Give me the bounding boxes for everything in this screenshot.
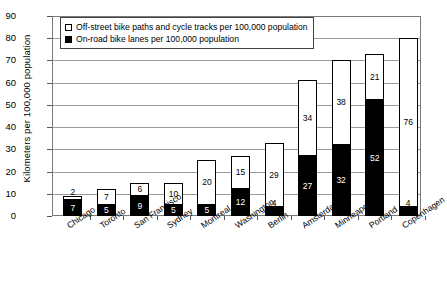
bar-value-label: 21 <box>370 73 379 82</box>
bar-value-label: 5 <box>171 206 176 215</box>
bar-value-label: 76 <box>403 118 412 127</box>
bar-value-label: 38 <box>336 98 345 107</box>
bar-value-label: 6 <box>137 185 142 194</box>
bar-segment-off-street: 15 <box>231 156 250 189</box>
bar-value-label: 9 <box>137 202 142 211</box>
y-tick-label: 20 <box>0 167 16 177</box>
bar-value-label: 7 <box>70 204 75 213</box>
bar-value-label: 12 <box>236 198 245 207</box>
bar-group: 205 <box>197 160 216 216</box>
bar-group: 3427 <box>298 80 317 216</box>
bar-group: 764 <box>399 38 418 216</box>
bar-group: 1512 <box>231 156 250 216</box>
y-axis-title: Kilometers per 100,000 population <box>21 9 32 209</box>
bar-value-label: 29 <box>269 171 278 180</box>
bar-value-label: 27 <box>303 182 312 191</box>
y-tick-label: 80 <box>0 33 16 43</box>
y-tick-label: 90 <box>0 11 16 21</box>
bar-value-label: 5 <box>205 206 210 215</box>
legend-swatch-off-street-icon <box>65 24 72 31</box>
bar-group: 2152 <box>365 54 384 216</box>
legend-swatch-on-road-icon <box>65 36 72 43</box>
legend-label-on-road: On-road bike lanes per 100,000 populatio… <box>76 35 239 44</box>
y-tick-label: 50 <box>0 100 16 110</box>
bar-value-label: 34 <box>303 114 312 123</box>
bar-value-label: 7 <box>104 193 109 202</box>
bar-value-label: 52 <box>370 154 379 163</box>
y-tick-label: 70 <box>0 56 16 66</box>
bar-value-label: 20 <box>202 178 211 187</box>
bar-value-label: 15 <box>236 168 245 177</box>
y-tick-mark <box>47 216 52 217</box>
y-tick-label: 40 <box>0 122 16 132</box>
y-tick-label: 60 <box>0 78 16 88</box>
bar-segment-off-street: 38 <box>332 60 351 144</box>
x-tick-mark <box>291 216 292 220</box>
legend-label-off-street: Off-street bike paths and cycle tracks p… <box>76 23 308 32</box>
bar-segment-off-street: 34 <box>298 80 317 156</box>
bar-value-label: 4 <box>406 199 411 208</box>
bar-segment-off-street: 21 <box>365 54 384 101</box>
bar-value-label: 32 <box>336 176 345 185</box>
bar-value-label: 5 <box>104 206 109 215</box>
y-tick-label: 10 <box>0 189 16 199</box>
legend-entry-on-road: On-road bike lanes per 100,000 populatio… <box>65 33 308 45</box>
bar-segment-off-street: 20 <box>197 160 216 204</box>
bar-segment-off-street: 76 <box>399 38 418 207</box>
chart-legend: Off-street bike paths and cycle tracks p… <box>60 17 314 49</box>
bar-segment-off-street: 6 <box>130 183 149 196</box>
y-tick-label: 0 <box>0 211 16 221</box>
bar-segment-on-road: 27 <box>298 156 317 216</box>
y-tick-label: 30 <box>0 145 16 155</box>
bar-group: 3832 <box>332 60 351 216</box>
bar-value-label: 2 <box>70 188 75 197</box>
legend-entry-off-street: Off-street bike paths and cycle tracks p… <box>65 21 308 33</box>
bar-segment-off-street: 7 <box>97 189 116 205</box>
